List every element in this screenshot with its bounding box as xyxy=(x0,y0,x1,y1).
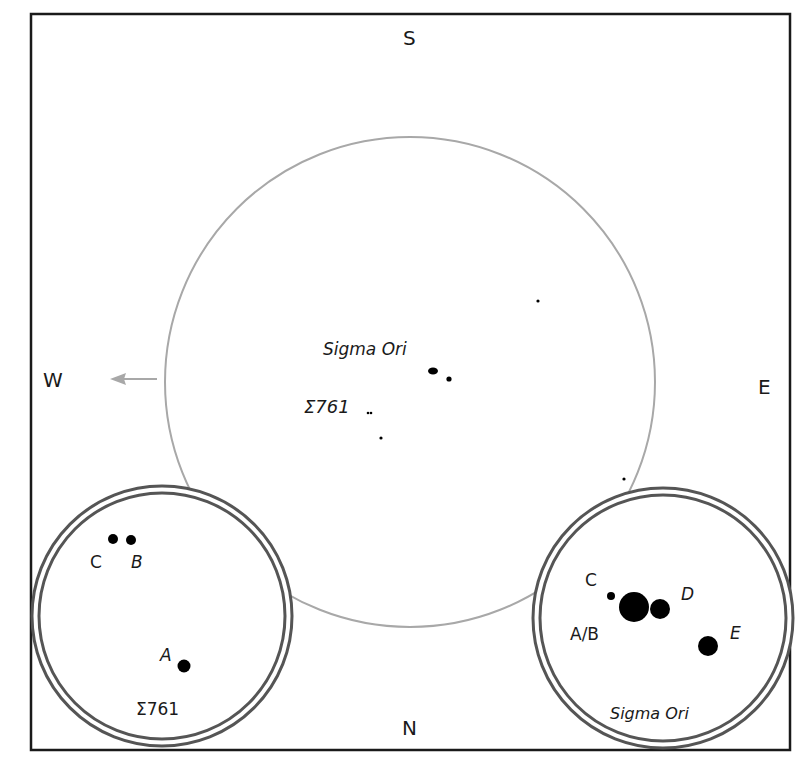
inset-right-title: Sigma Ori xyxy=(610,704,689,723)
direction-east: E xyxy=(758,375,771,399)
star-a-b xyxy=(619,592,649,622)
direction-west: W xyxy=(43,368,63,392)
inset-left-label-a: A xyxy=(160,645,172,665)
star-c xyxy=(108,534,118,544)
star-struve-761-a xyxy=(367,412,370,415)
inset-left-label-c: C xyxy=(90,552,102,572)
star-sigma-ori-group xyxy=(428,368,438,375)
inset-right-label-e: E xyxy=(730,623,741,643)
inset-right-label-c: C xyxy=(585,570,597,590)
star-field xyxy=(379,436,382,439)
star-a xyxy=(178,660,191,673)
star-b xyxy=(126,535,136,545)
star-field xyxy=(622,477,625,480)
main-field-stars xyxy=(367,299,626,480)
inset-right-label-a-b: A/B xyxy=(570,624,599,644)
star-e xyxy=(698,636,718,656)
star-struve-761-b xyxy=(370,412,373,415)
star-c xyxy=(607,592,615,600)
finder-chart xyxy=(0,0,798,762)
west-arrow-icon xyxy=(110,373,157,385)
label-sigma-ori: Sigma Ori xyxy=(323,339,407,359)
inset-right-label-d: D xyxy=(681,584,694,604)
direction-south: S xyxy=(403,26,416,50)
star-sigma-ori-e xyxy=(446,376,451,381)
label-struve-761: Σ761 xyxy=(304,396,350,417)
inset-left-label-b: B xyxy=(131,552,143,572)
direction-north: N xyxy=(402,716,417,740)
star-d xyxy=(650,599,670,619)
star-field xyxy=(536,299,539,302)
inset-left-title: Σ761 xyxy=(136,699,179,719)
